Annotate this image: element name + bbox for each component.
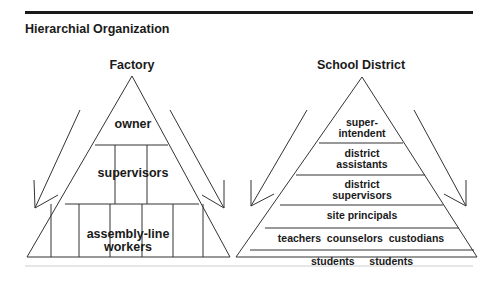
- factory-level-supervisors: supervisors: [98, 167, 169, 180]
- school-district-title: School District: [317, 58, 405, 72]
- school-level-district-assistants: district assistants: [336, 148, 387, 170]
- hierarchy-diagram: [0, 0, 499, 294]
- factory-left-arrow: [34, 110, 80, 208]
- school-level-staff: teachers counselors custodians: [278, 233, 444, 244]
- factory-right-arrow: [170, 110, 224, 208]
- factory-level-owner: owner: [115, 118, 152, 131]
- school-level-superintendent: super- intendent: [338, 117, 385, 139]
- bottom-rule: [25, 265, 473, 267]
- school-left-arrow: [251, 110, 307, 206]
- factory-level-workers: assembly-line workers: [87, 228, 170, 254]
- school-level-district-supervisors: district supervisors: [332, 179, 392, 201]
- school-right-arrow: [414, 110, 466, 206]
- factory-title: Factory: [109, 58, 154, 72]
- school-level-site-principals: site principals: [327, 210, 398, 221]
